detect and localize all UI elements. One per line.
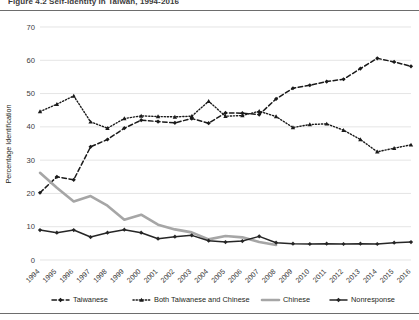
- x-axis-tick-label: 2002: [159, 267, 177, 285]
- x-axis-tick-label: 1995: [41, 267, 59, 285]
- y-axis-tick-label: 30: [27, 156, 35, 165]
- chart-legend: TaiwaneseBoth Taiwanese and ChineseChine…: [52, 295, 395, 304]
- data-point-marker: [308, 83, 312, 87]
- line-chart: 706050403020100 199419951996199719981999…: [0, 12, 419, 312]
- series-chinese: [40, 173, 276, 245]
- legend-item-chinese[interactable]: Chinese: [262, 295, 310, 304]
- x-axis-tick-label: 2015: [378, 267, 396, 285]
- chart-area: 706050403020100 199419951996199719981999…: [0, 12, 419, 312]
- x-axis-tick-label: 2005: [209, 267, 227, 285]
- data-point-marker: [325, 79, 329, 83]
- legend-marker-taiwanese: [58, 298, 63, 303]
- data-point-marker: [223, 240, 227, 244]
- data-point-marker: [341, 242, 345, 246]
- data-point-marker: [308, 122, 312, 126]
- figure-title: Figure 4.2 Self-identity in Taiwan, 1994…: [8, 0, 179, 6]
- x-axis-tick-label: 2012: [327, 267, 345, 285]
- x-axis-tick-label: 1996: [57, 267, 75, 285]
- y-axis-tick-label: 40: [27, 122, 35, 131]
- data-series-layer: [38, 56, 413, 246]
- x-axis-tick-label: 2000: [125, 267, 143, 285]
- legend-item-taiwanese[interactable]: Taiwanese: [52, 295, 108, 304]
- data-point-marker: [72, 94, 76, 98]
- y-axis-tick-label: 70: [27, 23, 35, 32]
- x-axis-tick-label: 2004: [192, 267, 210, 285]
- x-axis-tick-label: 1997: [74, 267, 92, 285]
- legend-label-taiwanese: Taiwanese: [73, 295, 108, 304]
- data-point-marker: [308, 242, 312, 246]
- series-taiwanese: [38, 56, 413, 195]
- figure-container: Figure 4.2 Self-identity in Taiwan, 1994…: [0, 0, 419, 320]
- data-point-marker: [173, 121, 177, 125]
- x-axis-tick-label: 2013: [344, 267, 362, 285]
- data-point-marker: [375, 56, 379, 60]
- x-axis-tick-label: 2006: [226, 267, 244, 285]
- data-point-marker: [375, 242, 379, 246]
- x-axis-tick-label: 2008: [260, 267, 278, 285]
- data-point-marker: [88, 235, 92, 239]
- data-point-marker: [105, 231, 109, 235]
- data-point-marker: [240, 239, 244, 243]
- x-axis-tick-label: 2011: [311, 267, 328, 284]
- x-axis-tick-labels: 1994199519961997199819992000200120022003…: [24, 267, 413, 285]
- bottom-rule: [0, 313, 419, 314]
- data-point-marker: [156, 119, 160, 123]
- y-axis-tick-label: 60: [27, 56, 35, 65]
- legend-label-nonresponse: Nonresponse: [351, 295, 395, 304]
- y-axis-tick-label: 20: [27, 189, 35, 198]
- data-point-marker: [409, 240, 413, 244]
- data-point-marker: [392, 241, 396, 245]
- legend-label-both-taiwanese-and-chinese: Both Taiwanese and Chinese: [154, 295, 250, 304]
- data-point-marker: [55, 231, 59, 235]
- series-line: [40, 96, 411, 152]
- data-point-marker: [156, 237, 160, 241]
- data-point-marker: [122, 228, 126, 232]
- y-axis-tick-label: 0: [31, 256, 35, 265]
- x-axis-tick-label: 2010: [294, 267, 312, 285]
- data-point-marker: [173, 235, 177, 239]
- x-axis-tick-label: 2014: [361, 267, 379, 285]
- data-point-marker: [257, 234, 261, 238]
- data-point-marker: [274, 114, 278, 118]
- y-axis-tick-label: 10: [27, 222, 35, 231]
- legend-item-both-taiwanese-and-chinese[interactable]: Both Taiwanese and Chinese: [133, 295, 250, 304]
- series-line: [40, 58, 411, 192]
- series-line: [40, 173, 276, 245]
- x-axis-tick-label: 2016: [395, 267, 413, 285]
- data-point-marker: [139, 118, 143, 122]
- y-axis-title: Percentage Identification: [4, 104, 13, 183]
- data-point-marker: [105, 137, 109, 141]
- data-point-marker: [291, 242, 295, 246]
- data-point-marker: [139, 231, 143, 235]
- legend-label-chinese: Chinese: [283, 295, 310, 304]
- data-point-marker: [38, 228, 42, 232]
- data-point-marker: [72, 228, 76, 232]
- y-axis-tick-label: 50: [27, 89, 35, 98]
- data-point-marker: [325, 242, 329, 246]
- x-axis-tick-label: 2007: [243, 267, 261, 285]
- data-point-marker: [341, 77, 345, 81]
- x-axis-tick-label: 2009: [277, 267, 295, 285]
- x-axis-tick-label: 1998: [91, 267, 109, 285]
- x-axis-tick-label: 2001: [142, 267, 160, 285]
- top-rule: [0, 10, 419, 11]
- data-point-marker: [409, 64, 413, 68]
- x-axis-tick-label: 1999: [108, 267, 126, 285]
- data-point-marker: [206, 99, 210, 103]
- legend-item-nonresponse[interactable]: Nonresponse: [330, 295, 395, 304]
- y-axis-tick-labels: 706050403020100: [27, 23, 35, 265]
- gridlines: [40, 27, 411, 260]
- x-axis-tick-label: 1994: [24, 267, 42, 285]
- data-point-marker: [358, 242, 362, 246]
- x-axis-tick-label: 2003: [176, 267, 194, 285]
- legend-marker-nonresponse: [336, 298, 341, 303]
